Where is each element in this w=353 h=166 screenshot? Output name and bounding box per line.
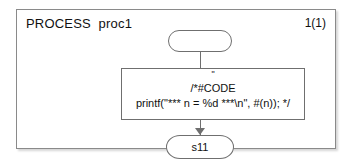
sdl-task-symbol[interactable]: " /*#CODE printf("*** n = %d ***\n", #(n… bbox=[121, 68, 305, 120]
process-frame: PROCESS proc1 1(1) " /*#CODE printf("***… bbox=[16, 9, 336, 149]
page-number: 1(1) bbox=[305, 16, 326, 30]
connector-start-to-task bbox=[200, 52, 201, 68]
sdl-start-symbol[interactable] bbox=[168, 30, 232, 52]
sdl-state-symbol[interactable]: s11 bbox=[166, 135, 234, 159]
sdl-state-label: s11 bbox=[192, 141, 209, 153]
page-title: PROCESS proc1 bbox=[26, 16, 132, 31]
task-code-text: /*#CODE printf("*** n = %d ***\n", #(n))… bbox=[122, 81, 304, 111]
diagram-canvas: PROCESS proc1 1(1) " /*#CODE printf("***… bbox=[0, 0, 353, 166]
task-quote-mark: " bbox=[122, 70, 304, 79]
arrowhead-icon bbox=[195, 128, 205, 135]
